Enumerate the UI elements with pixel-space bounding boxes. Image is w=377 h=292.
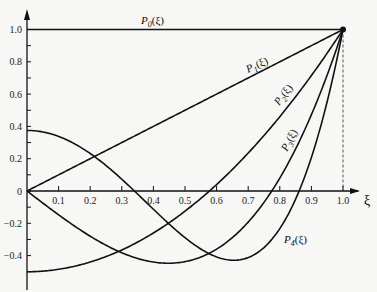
y-tick-label: 0.2 [10, 153, 23, 164]
x-tick-label: 0.8 [274, 195, 287, 206]
x-axis-arrow-icon [350, 188, 360, 194]
x-tick-label: 0.1 [52, 195, 65, 206]
x-tick-label: 0.5 [179, 195, 192, 206]
y-axis-arrow-icon [24, 9, 30, 20]
y-tick-label: −0.4 [4, 250, 22, 261]
axes [24, 9, 360, 290]
x-tick-label: 1.0 [337, 195, 350, 206]
label-p0: P0(ξ) [140, 14, 164, 29]
y-tick-label: 0.4 [10, 121, 23, 132]
x-tick-label: 0.4 [147, 195, 160, 206]
curve-p1 [27, 30, 343, 192]
y-tick-label: 0 [17, 186, 22, 197]
x-tick-label: 0.9 [305, 195, 318, 206]
y-tick-label: 0.8 [10, 56, 23, 67]
label-p2: P2(ξ) [271, 81, 298, 109]
tick-labels: 1.00.80.60.40.20−0.2−0.40.10.20.30.40.50… [4, 24, 349, 261]
legendre-chart: 1.00.80.60.40.20−0.2−0.40.10.20.30.40.50… [0, 0, 377, 292]
y-tick-label: −0.2 [4, 218, 22, 229]
plot-area: 1.00.80.60.40.20−0.2−0.40.10.20.30.40.50… [0, 0, 377, 292]
x-axis-label: ξ [364, 193, 370, 208]
x-tick-label: 0.2 [84, 195, 97, 206]
x-tick-label: 0.6 [210, 195, 223, 206]
label-p4: P4(ξ) [283, 233, 307, 248]
x-tick-label: 0.3 [116, 195, 129, 206]
y-tick-label: 1.0 [10, 24, 23, 35]
x-tick-label: 0.7 [242, 195, 255, 206]
y-tick-label: 0.6 [10, 89, 23, 100]
convergence-point [340, 27, 346, 33]
label-p1: P1(ξ) [243, 54, 271, 78]
